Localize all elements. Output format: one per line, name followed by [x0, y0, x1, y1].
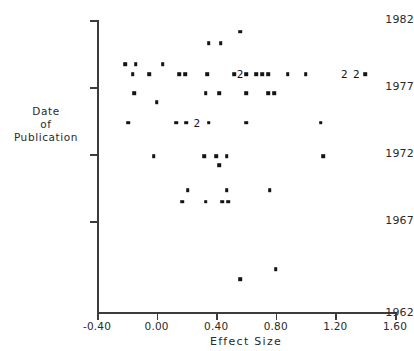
datapoint	[268, 188, 272, 192]
datapoint	[225, 188, 229, 192]
datapoint	[126, 121, 130, 125]
x-axis-title: Effect Size	[97, 335, 395, 348]
datapoint	[304, 72, 308, 76]
x-tick-label-160: 1.60	[371, 321, 414, 332]
datapoint	[363, 72, 367, 76]
datapoint	[225, 154, 229, 158]
datapoint	[322, 154, 326, 158]
datapoint	[174, 121, 178, 125]
datapoint	[273, 91, 277, 95]
datapoint	[132, 91, 136, 95]
overplot-count-label: 2	[353, 69, 360, 80]
x-tick-120	[335, 313, 337, 320]
x-tick-label-000: 0.00	[133, 321, 181, 332]
datapoint	[244, 72, 248, 76]
datapoint	[180, 200, 184, 204]
datapoint	[177, 72, 181, 76]
overplot-count-label: 2	[341, 69, 348, 80]
y-tick-1977	[90, 87, 97, 89]
datapoint	[161, 62, 165, 66]
datapoint	[226, 200, 230, 204]
x-tick-label-120: 1.20	[311, 321, 359, 332]
x-tick-label-neg040: -0.40	[73, 321, 121, 332]
y-tick-1982	[90, 20, 97, 22]
datapoint	[267, 91, 271, 95]
x-tick-080	[276, 313, 278, 320]
datapoint	[205, 72, 209, 76]
datapoint	[238, 278, 242, 282]
datapoint	[185, 121, 189, 125]
datapoint	[147, 72, 151, 76]
datapoint	[274, 267, 278, 271]
y-axis-title-line-2: of	[4, 118, 88, 131]
datapoint	[244, 121, 248, 125]
datapoint	[202, 154, 206, 158]
x-tick-label-080: 0.80	[252, 321, 300, 332]
datapoint	[217, 163, 221, 167]
datapoint	[286, 72, 290, 76]
datapoint	[220, 200, 224, 204]
datapoint	[186, 188, 190, 192]
datapoint	[134, 62, 138, 66]
plot-area: 2222	[97, 20, 395, 313]
datapoint	[261, 72, 265, 76]
y-tick-1967	[90, 221, 97, 223]
y-axis-title: Date of Publication	[4, 105, 88, 144]
y-axis-title-line-3: Publication	[4, 131, 88, 144]
datapoint	[152, 154, 156, 158]
datapoint	[244, 91, 248, 95]
datapoint	[217, 91, 221, 95]
x-tick-160	[395, 313, 397, 320]
x-tick-000	[157, 313, 159, 320]
x-tick-neg040	[97, 313, 99, 320]
datapoint	[183, 72, 187, 76]
datapoint	[238, 30, 242, 34]
datapoint	[232, 72, 236, 76]
datapoint	[207, 42, 211, 46]
overplot-count-label: 2	[193, 117, 200, 128]
datapoint	[207, 121, 211, 125]
datapoint	[255, 72, 259, 76]
scatter-plot-figure: 1982 1977 1972 1967 1962 -0.40 0.00 0.40…	[0, 0, 414, 351]
x-tick-label-040: 0.40	[192, 321, 240, 332]
datapoint	[267, 72, 271, 76]
datapoint	[214, 154, 218, 158]
datapoint	[219, 42, 223, 46]
y-axis-title-line-1: Date	[4, 105, 88, 118]
y-tick-1972	[90, 154, 97, 156]
overplot-count-label: 2	[237, 69, 244, 80]
datapoint	[204, 200, 208, 204]
datapoint	[124, 62, 128, 66]
datapoint	[319, 121, 323, 125]
datapoint	[131, 72, 135, 76]
datapoint	[204, 91, 208, 95]
x-tick-040	[216, 313, 218, 320]
datapoint	[155, 100, 159, 104]
